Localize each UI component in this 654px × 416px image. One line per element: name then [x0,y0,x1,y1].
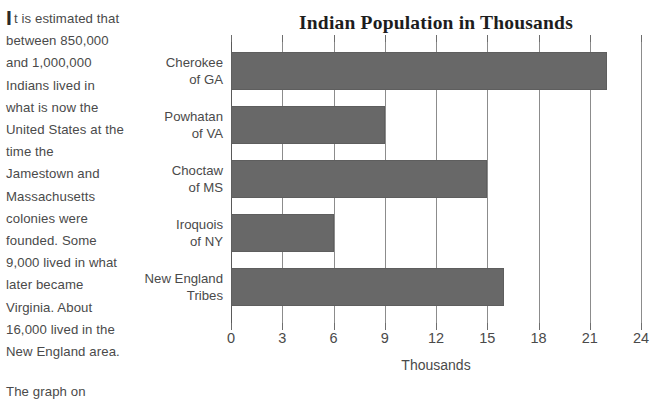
tick-bottom-24 [641,323,642,330]
tick-top-12 [436,35,437,42]
x-tick-label: 3 [278,330,286,346]
tick-top-6 [334,35,335,42]
x-tick-label: 6 [329,330,337,346]
x-tick-label: 12 [428,330,444,346]
category-label: Cherokee of GA [73,54,223,88]
tick-bottom-3 [282,323,283,330]
bar [231,214,334,252]
plot-area [231,42,641,323]
x-axis-tick-labels: 03691215182124 [231,330,641,352]
tick-top-0 [231,35,232,42]
tick-top-9 [385,35,386,42]
x-axis-title: Thousands [231,357,641,373]
tick-bottom-0 [231,323,232,330]
x-tick-label: 15 [479,330,495,346]
category-axis-labels: Cherokee of GAPowhatan of VAChoctaw of M… [73,42,223,323]
tick-top-24 [641,35,642,42]
x-tick-label: 18 [530,330,546,346]
bar [231,52,607,90]
x-tick-label: 24 [633,330,649,346]
bar-chart: Indian Population in Thousands Cherokee … [0,0,654,416]
bar [231,106,385,144]
x-tick-label: 21 [582,330,598,346]
tick-bottom-9 [385,323,386,330]
tick-top-21 [590,35,591,42]
category-label: New England Tribes [73,270,223,304]
tick-bottom-12 [436,323,437,330]
tick-bottom-18 [539,323,540,330]
bar [231,160,487,198]
category-label: Iroquois of NY [73,216,223,250]
bar [231,268,504,306]
x-tick-label: 0 [227,330,235,346]
gridline-24 [641,42,642,323]
tick-top-18 [539,35,540,42]
tick-bottom-15 [487,323,488,330]
category-label: Choctaw of MS [73,162,223,196]
tick-top-15 [487,35,488,42]
chart-title: Indian Population in Thousands [231,12,641,34]
category-label: Powhatan of VA [73,108,223,142]
x-tick-label: 9 [381,330,389,346]
tick-bottom-6 [334,323,335,330]
tick-top-3 [282,35,283,42]
tick-bottom-21 [590,323,591,330]
